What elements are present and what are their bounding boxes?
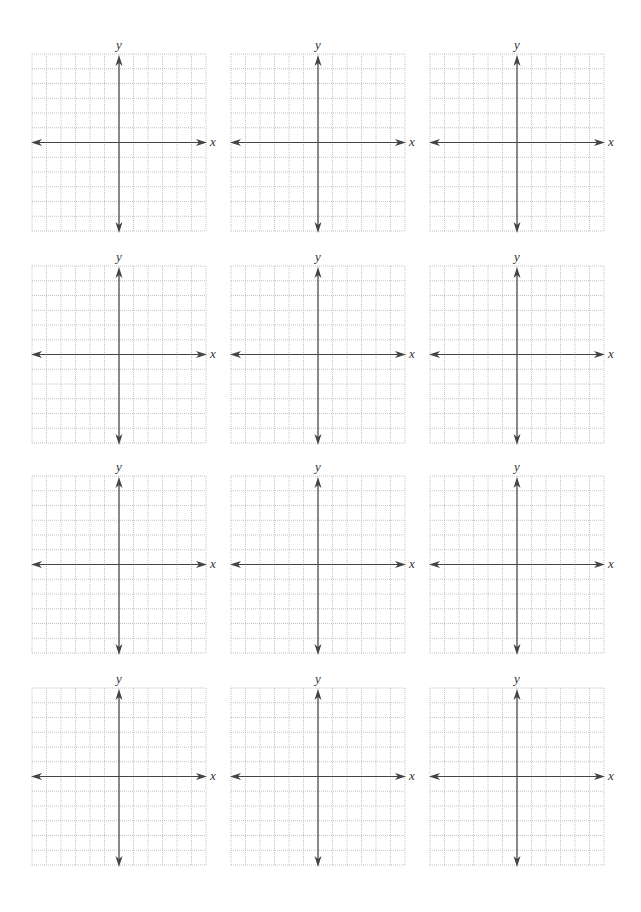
y-axis-label: y: [116, 460, 122, 473]
y-axis-label: y: [315, 672, 321, 685]
y-axis-label: y: [315, 38, 321, 51]
x-axis-label: x: [210, 769, 216, 782]
grid-lines: [231, 476, 405, 653]
x-axis-label: x: [409, 557, 415, 570]
grid-lines: [231, 266, 405, 443]
x-axis-label: x: [608, 769, 614, 782]
coordinate-grid: yx: [32, 476, 206, 653]
y-axis-label: y: [514, 250, 520, 263]
x-axis-label: x: [608, 347, 614, 360]
coordinate-grid: yx: [231, 688, 405, 865]
grid-lines: [32, 476, 206, 653]
grid-lines: [32, 266, 206, 443]
grid-lines: [430, 476, 604, 653]
coordinate-grid: yx: [231, 54, 405, 231]
coordinate-grid: yx: [231, 266, 405, 443]
grid-lines: [32, 54, 206, 231]
coordinate-grid: yx: [32, 266, 206, 443]
y-axis-label: y: [116, 38, 122, 51]
x-axis-label: x: [210, 347, 216, 360]
coordinate-grid: yx: [430, 54, 604, 231]
x-axis-label: x: [608, 557, 614, 570]
y-axis-label: y: [514, 672, 520, 685]
grid-lines: [430, 688, 604, 865]
x-axis-label: x: [409, 769, 415, 782]
grid-lines: [231, 54, 405, 231]
y-axis-label: y: [315, 460, 321, 473]
x-axis-label: x: [608, 135, 614, 148]
y-axis-label: y: [315, 250, 321, 263]
x-axis-label: x: [210, 135, 216, 148]
y-axis-label: y: [514, 460, 520, 473]
coordinate-grid: yx: [32, 688, 206, 865]
coordinate-grid: yx: [231, 476, 405, 653]
graph-paper-worksheet: yxyxyxyxyxyxyxyxyxyxyxyx: [0, 0, 641, 912]
x-axis-label: x: [409, 347, 415, 360]
coordinate-grid: yx: [32, 54, 206, 231]
grid-lines: [430, 54, 604, 231]
coordinate-grid: yx: [430, 266, 604, 443]
coordinate-grid: yx: [430, 476, 604, 653]
grid-lines: [32, 688, 206, 865]
x-axis-label: x: [210, 557, 216, 570]
grid-lines: [231, 688, 405, 865]
y-axis-label: y: [116, 672, 122, 685]
coordinate-grid: yx: [430, 688, 604, 865]
y-axis-label: y: [116, 250, 122, 263]
y-axis-label: y: [514, 38, 520, 51]
x-axis-label: x: [409, 135, 415, 148]
grid-lines: [430, 266, 604, 443]
